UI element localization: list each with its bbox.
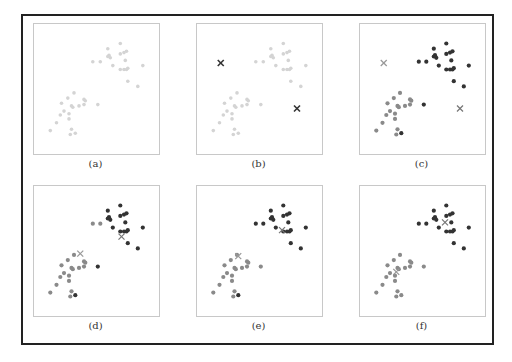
- data-point: [444, 203, 448, 207]
- centroid-marker: [119, 234, 125, 240]
- data-point: [225, 271, 229, 275]
- data-point: [229, 96, 233, 100]
- data-point: [96, 103, 100, 107]
- data-point: [274, 226, 278, 230]
- data-point: [282, 42, 286, 46]
- data-point: [82, 265, 86, 269]
- data-point: [424, 222, 428, 226]
- panel-a: [33, 23, 160, 155]
- data-point: [422, 103, 426, 107]
- data-point: [417, 60, 421, 64]
- data-point: [395, 289, 399, 293]
- centroid-marker: [381, 60, 387, 66]
- data-point: [444, 52, 448, 56]
- data-point: [385, 101, 389, 105]
- data-point: [236, 293, 240, 297]
- data-point: [286, 220, 290, 224]
- data-point: [432, 54, 436, 58]
- data-point: [432, 216, 436, 220]
- data-point: [384, 113, 388, 117]
- data-point: [211, 291, 215, 295]
- data-point: [409, 261, 413, 265]
- data-point: [417, 222, 421, 226]
- data-point: [449, 58, 453, 62]
- data-point: [437, 226, 441, 230]
- data-point: [237, 131, 241, 135]
- data-point: [68, 294, 72, 298]
- data-point: [398, 91, 402, 95]
- data-point: [98, 222, 102, 226]
- data-point: [245, 265, 249, 269]
- data-point: [259, 265, 263, 269]
- data-point: [49, 129, 53, 133]
- data-point: [106, 47, 110, 51]
- data-point: [84, 99, 88, 103]
- centroid-marker: [218, 60, 224, 66]
- data-point: [393, 279, 397, 283]
- data-point: [119, 52, 123, 56]
- data-point: [69, 133, 73, 137]
- caption-c: (c): [359, 158, 484, 169]
- data-point: [240, 104, 244, 108]
- data-point: [246, 261, 250, 265]
- data-point: [225, 109, 229, 113]
- data-point: [77, 104, 81, 108]
- data-point: [289, 66, 293, 70]
- data-point: [467, 64, 471, 68]
- data-point: [118, 214, 122, 218]
- data-point: [380, 283, 384, 287]
- data-point: [72, 253, 76, 257]
- data-point: [259, 103, 263, 107]
- data-point: [62, 271, 66, 275]
- data-point: [232, 289, 236, 293]
- data-point: [282, 68, 286, 72]
- data-point: [229, 258, 233, 262]
- centroid-marker: [457, 106, 463, 112]
- data-point: [462, 246, 466, 250]
- data-point: [397, 105, 401, 109]
- data-point: [230, 112, 234, 116]
- data-point: [287, 59, 291, 63]
- scatter-plot-c: [360, 24, 485, 154]
- data-point: [374, 129, 378, 133]
- data-point: [230, 279, 234, 283]
- data-point: [125, 50, 129, 54]
- data-point: [254, 60, 258, 64]
- data-point: [287, 211, 291, 215]
- caption-f: (f): [359, 320, 484, 331]
- scatter-plot-b: [197, 24, 322, 154]
- data-point: [69, 289, 73, 293]
- data-point: [394, 132, 398, 136]
- data-point: [388, 271, 392, 275]
- data-point: [96, 265, 100, 269]
- data-point: [123, 220, 127, 224]
- data-point: [82, 103, 86, 107]
- centroid-marker: [294, 106, 300, 112]
- data-point: [235, 91, 239, 95]
- data-point: [230, 274, 234, 278]
- data-point: [67, 117, 71, 121]
- data-point: [54, 283, 58, 287]
- data-point: [106, 55, 110, 59]
- data-point: [399, 131, 403, 135]
- data-point: [403, 104, 407, 108]
- data-point: [444, 229, 448, 233]
- data-point: [60, 102, 64, 106]
- data-point: [126, 79, 130, 83]
- data-point: [289, 228, 293, 232]
- data-point: [221, 275, 225, 279]
- panel-e: [196, 185, 323, 317]
- data-point: [230, 117, 234, 121]
- data-point: [408, 103, 412, 107]
- data-point: [274, 64, 278, 68]
- data-point: [422, 265, 426, 269]
- data-point: [452, 228, 456, 232]
- data-point: [245, 103, 249, 107]
- data-point: [432, 209, 436, 213]
- scatter-plot-d: [34, 186, 159, 316]
- panel-f: [359, 185, 486, 317]
- caption-b: (b): [196, 158, 321, 169]
- data-point: [269, 47, 273, 51]
- data-point: [269, 209, 273, 213]
- data-point: [262, 60, 266, 64]
